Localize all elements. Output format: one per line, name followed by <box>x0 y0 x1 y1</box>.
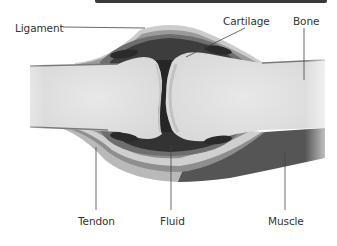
ligament-leader-line <box>63 27 145 28</box>
cartilage-label: Cartilage <box>223 15 270 27</box>
ligament-label: Ligament <box>15 22 64 34</box>
right-bone <box>166 52 325 141</box>
bone-label: Bone <box>293 15 319 27</box>
tendon-label: Tendon <box>78 215 115 227</box>
left-bone <box>30 57 162 139</box>
fluid-label: Fluid <box>160 215 185 227</box>
synovial-joint-diagram: Ligament Cartilage Bone Tendon Fluid Mus… <box>0 0 337 246</box>
joint-illustration <box>0 0 337 246</box>
muscle-label: Muscle <box>268 215 304 227</box>
